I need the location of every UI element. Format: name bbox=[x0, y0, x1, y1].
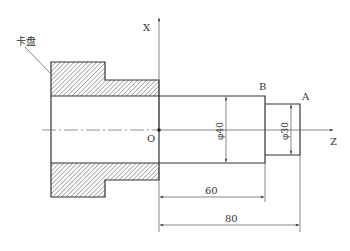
workpiece-large-diameter bbox=[159, 96, 265, 163]
dim-label-80: 80 bbox=[225, 214, 238, 224]
chuck-label: 卡盘 bbox=[16, 37, 36, 47]
point-b-label: B bbox=[259, 82, 266, 92]
dim-label-dia-small: φ30 bbox=[280, 122, 290, 140]
turning-coordinate-diagram bbox=[0, 0, 350, 251]
x-axis-label: X bbox=[143, 23, 150, 33]
dim-label-60: 60 bbox=[205, 186, 218, 196]
chuck-upper-jaw bbox=[51, 62, 159, 96]
chuck-bore bbox=[51, 96, 159, 163]
z-axis-label: Z bbox=[330, 137, 337, 147]
point-a-label: A bbox=[302, 92, 309, 102]
origin-label: O bbox=[147, 134, 155, 144]
origin-point bbox=[157, 128, 161, 132]
chuck-lower-jaw bbox=[51, 163, 159, 197]
dim-label-dia-large: φ40 bbox=[215, 122, 225, 140]
chuck-leader-line bbox=[25, 47, 51, 74]
